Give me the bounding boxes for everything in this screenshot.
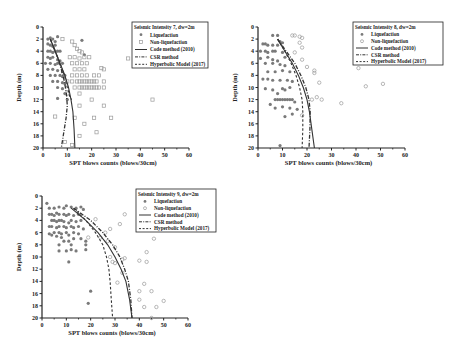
liquefaction-point — [72, 231, 75, 234]
x-axis-label: SPT blows counts (blows/30cm) — [68, 329, 155, 337]
liquefaction-point — [74, 249, 77, 252]
liquefaction-point — [82, 208, 85, 211]
liquefaction-point — [84, 243, 87, 246]
liquefaction-point — [62, 220, 65, 223]
liquefaction-point — [65, 204, 68, 207]
chart-intensity-9: 010203040506002468101214161820SPT blows … — [0, 0, 450, 350]
non-liquefaction-point — [94, 217, 97, 220]
liquefaction-point — [65, 226, 68, 229]
liquefaction-point — [72, 226, 75, 229]
x-tick-label: 30 — [112, 322, 118, 328]
non-liquefaction-point — [145, 260, 148, 263]
liquefaction-point — [57, 249, 60, 252]
liquefaction-point — [67, 260, 70, 263]
liquefaction-point — [53, 207, 56, 210]
liquefaction-point — [87, 302, 90, 305]
y-tick-label: 16 — [32, 291, 38, 297]
liquefaction-point — [79, 237, 82, 240]
x-tick-label: 40 — [136, 322, 142, 328]
liquefaction-point — [57, 205, 60, 208]
liquefaction-point — [60, 236, 63, 239]
x-tick-label: 20 — [88, 322, 94, 328]
y-axis-label: Depth (m) — [15, 243, 23, 271]
series-csr-method — [74, 208, 132, 318]
liquefaction-point — [67, 240, 70, 243]
x-tick-label: 0 — [41, 322, 44, 328]
x-tick-label: 60 — [185, 322, 191, 328]
liquefaction-point — [70, 248, 73, 251]
liquefaction-point — [77, 225, 80, 228]
liquefaction-point — [62, 240, 65, 243]
curve-line — [74, 208, 113, 318]
liquefaction-point — [84, 248, 87, 251]
y-tick-label: 0 — [35, 193, 38, 199]
non-liquefaction-point — [108, 255, 111, 258]
liquefaction-point — [67, 233, 70, 236]
y-tick-label: 4 — [35, 217, 38, 223]
legend-entry: CSR method — [154, 219, 183, 225]
liquefaction-point — [72, 237, 75, 240]
legend: Seismic Intensity 9, dw=2mLiquefactionNo… — [136, 189, 216, 232]
liquefaction-point — [55, 235, 58, 238]
non-liquefaction-point — [143, 305, 146, 308]
y-tick-label: 6 — [35, 230, 38, 236]
liquefaction-point — [67, 221, 70, 224]
non-liquefaction-point — [108, 227, 111, 230]
non-liquefaction-point — [150, 289, 153, 292]
non-liquefaction-point — [138, 298, 141, 301]
non-liquefaction-point — [145, 250, 148, 253]
y-tick-label: 12 — [32, 266, 38, 272]
liquefaction-point — [48, 207, 51, 210]
liquefaction-point — [79, 219, 82, 222]
liquefaction-point — [57, 213, 60, 216]
y-tick-label: 8 — [35, 242, 38, 248]
liquefaction-point — [57, 225, 60, 228]
curve-line — [74, 208, 132, 318]
legend-title: Seismic Intensity 9, dw=2m — [138, 191, 199, 197]
y-tick-label: 20 — [32, 315, 38, 321]
liquefaction-point — [70, 219, 73, 222]
y-tick-label: 18 — [32, 303, 38, 309]
x-tick-label: 50 — [161, 322, 167, 328]
liquefaction-point — [74, 220, 77, 223]
liquefaction-point — [84, 240, 87, 243]
liquefaction-point — [70, 205, 73, 208]
liquefaction-point — [65, 249, 68, 252]
liquefaction-point — [50, 225, 53, 228]
y-tick-label: 2 — [35, 205, 38, 211]
liquefaction-point — [82, 227, 85, 230]
legend-entry: Liquefaction — [154, 198, 182, 204]
liquefaction-point — [62, 207, 65, 210]
liquefaction-point — [45, 202, 48, 205]
legend-entry: Hyperbolic Model (2017) — [154, 225, 210, 232]
non-liquefaction-point — [138, 289, 141, 292]
non-liquefaction-point — [152, 237, 155, 240]
series-hyperbolic-model-2017- — [74, 208, 113, 318]
non-liquefaction-point — [118, 222, 121, 225]
liquefaction-point — [89, 290, 92, 293]
non-liquefaction-point — [87, 236, 90, 239]
liquefaction-point — [70, 243, 73, 246]
x-tick-label: 10 — [63, 322, 69, 328]
liquefaction-point — [57, 243, 60, 246]
non-liquefaction-point — [138, 259, 141, 262]
non-liquefaction-point — [116, 281, 119, 284]
non-liquefaction-point — [104, 231, 107, 234]
non-liquefaction-point — [143, 282, 146, 285]
non-liquefaction-point — [123, 213, 126, 216]
non-liquefaction-point — [162, 299, 165, 302]
liquefaction-point — [72, 214, 75, 217]
non-liquefaction-point — [155, 305, 158, 308]
y-tick-label: 14 — [32, 278, 38, 284]
liquefaction-point — [53, 231, 56, 234]
liquefaction-point — [65, 231, 68, 234]
liquefaction-point — [53, 214, 56, 217]
liquefaction-point — [67, 213, 70, 216]
liquefaction-point — [50, 233, 53, 236]
liquefaction-point — [60, 232, 63, 235]
liquefaction-point — [79, 205, 82, 208]
legend-entry: Non-liquefaction — [154, 205, 191, 211]
series-liquefaction — [45, 202, 92, 305]
y-tick-label: 10 — [32, 254, 38, 260]
liquefaction-point — [77, 232, 80, 235]
